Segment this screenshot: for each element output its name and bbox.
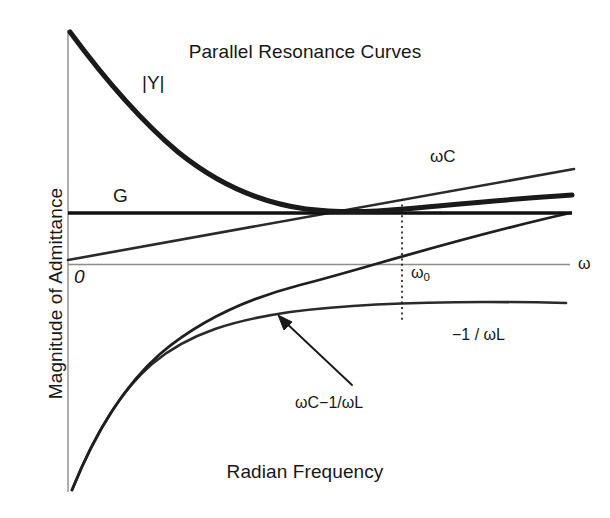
omega-symbol: ω — [411, 264, 424, 281]
origin-label: 0 — [74, 267, 85, 286]
resonance-plot — [0, 0, 610, 518]
curve-wc-minus-inv-wl — [72, 213, 570, 490]
omega-subscript: 0 — [424, 271, 430, 283]
x-axis-omega-symbol: ω — [578, 256, 591, 272]
chart-title: Parallel Resonance Curves — [0, 42, 610, 61]
net-susceptance-arrow — [278, 315, 352, 385]
series-label-inductive: −1 / ωL — [452, 327, 505, 343]
series-label-capacitive: ωC — [430, 148, 456, 165]
y-axis-label: Magnitude of Admittance — [46, 144, 65, 444]
x-axis-label: Radian Frequency — [0, 462, 610, 481]
series-label-net-susceptance: ωC−1/ωL — [295, 395, 363, 411]
series-label-magnitude-y: |Y| — [142, 73, 165, 92]
resonance-frequency-label: ω0 — [411, 265, 430, 284]
chart-figure: Parallel Resonance Curves Magnitude of A… — [0, 0, 610, 518]
series-label-conductance: G — [113, 186, 128, 205]
